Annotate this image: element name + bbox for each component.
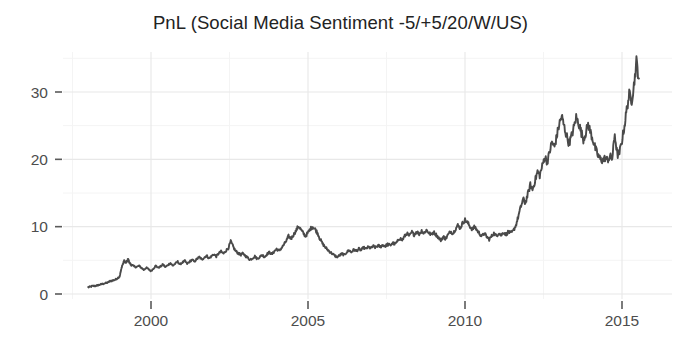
- plot-area: 01020302000200520102015: [0, 0, 681, 352]
- xtick-label: 2015: [605, 312, 639, 329]
- axis-tick-marks: [55, 92, 622, 309]
- chart-figure: PnL (Social Media Sentiment -5/+5/20/W/U…: [0, 0, 681, 352]
- xtick-label: 2010: [448, 312, 483, 329]
- minor-gridlines: [63, 52, 672, 299]
- axis-tick-labels: 01020302000200520102015: [31, 84, 639, 330]
- ytick-label: 10: [31, 218, 49, 235]
- xtick-label: 2005: [291, 312, 325, 329]
- ytick-label: 30: [31, 84, 49, 101]
- xtick-label: 2000: [134, 312, 169, 329]
- ytick-label: 0: [39, 286, 48, 303]
- data-series-line: [88, 56, 639, 287]
- ytick-label: 20: [31, 151, 49, 168]
- pnl-line: [88, 56, 639, 287]
- major-gridlines: [63, 52, 672, 299]
